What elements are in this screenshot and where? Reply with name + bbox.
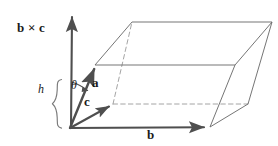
edge-right-bottom (210, 104, 248, 127)
label-vector-c: c (84, 95, 90, 108)
edge-right-front-vertical (210, 65, 235, 127)
height-brace-path (52, 80, 61, 129)
parallelepiped-figure: b × c a b c h θ (0, 0, 278, 146)
top-face-outline (95, 22, 272, 65)
vectors-group (70, 17, 204, 128)
vector-b-cross-c (71, 17, 72, 128)
hidden-edge-back-vertical (113, 22, 132, 104)
hidden-edges-group (113, 22, 248, 104)
solid-edges-group (95, 22, 272, 127)
label-vector-a: a (92, 76, 99, 89)
height-brace (52, 80, 61, 129)
label-b-cross-c: b × c (17, 21, 45, 34)
label-angle-theta: θ (71, 79, 77, 91)
vector-b (70, 127, 204, 128)
vector-c (70, 107, 109, 129)
label-vector-b: b (147, 128, 154, 141)
edge-right-back-vertical (248, 22, 272, 104)
label-height-h: h (38, 83, 44, 95)
